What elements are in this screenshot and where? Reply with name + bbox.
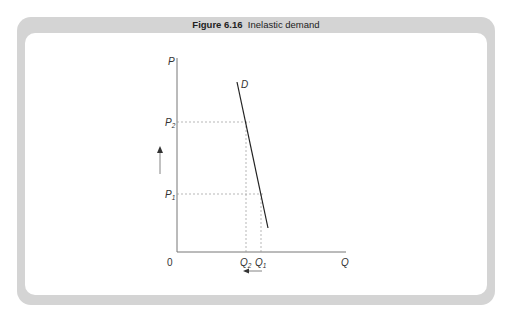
demand-curve: [237, 82, 268, 228]
chart-canvas: P Q 0 D P2 P1 Q2 Q1: [0, 0, 512, 321]
q2-label: Q2: [240, 257, 252, 269]
x-axis-label: Q: [341, 257, 349, 268]
origin-label: 0: [167, 257, 173, 268]
p1-label: P1: [165, 189, 176, 201]
demand-label: D: [241, 79, 248, 90]
arrow-up-icon: [157, 146, 163, 174]
arrow-left-icon: [243, 269, 262, 274]
q1-label: Q1: [255, 257, 267, 269]
p2-label: P2: [165, 117, 176, 129]
y-axis-label: P: [168, 56, 175, 67]
